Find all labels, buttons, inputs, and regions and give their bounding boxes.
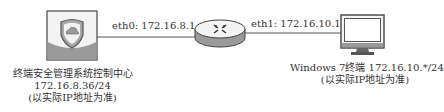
client-label-note: (以实际IP地址为准) bbox=[290, 74, 440, 86]
server-label-note: (以实际IP地址为准) bbox=[0, 92, 145, 104]
link-label-eth0: eth0: 172.16.8.1 bbox=[112, 20, 195, 32]
client-label: Windows 7终端 172.16.10.*/24 (以实际IP地址为准) bbox=[290, 62, 440, 86]
monitor-icon bbox=[341, 15, 384, 55]
shield-cloud-icon bbox=[47, 11, 97, 60]
server-label: 终端安全管理系统控制中心 172.16.8.36/24 (以实际IP地址为准) bbox=[0, 68, 145, 104]
link-label-eth1: eth1: 172.16.10.1 bbox=[251, 18, 341, 30]
server-label-ip: 172.16.8.36/24 bbox=[0, 80, 145, 92]
router-icon bbox=[195, 20, 245, 47]
client-label-name: Windows 7终端 172.16.10.*/24 bbox=[290, 62, 440, 74]
server-label-name: 终端安全管理系统控制中心 bbox=[0, 68, 145, 80]
